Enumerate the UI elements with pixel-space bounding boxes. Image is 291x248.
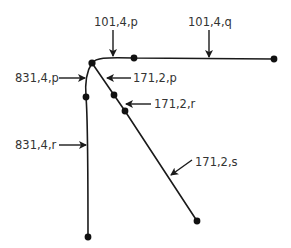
label-171-2-s: 171,2,s — [195, 155, 238, 169]
node-junction — [88, 59, 95, 66]
node-top-end — [271, 56, 278, 63]
label-101-4-p: 101,4,p — [94, 15, 138, 29]
node-diag-1 — [111, 92, 118, 99]
edge-left-branch — [86, 63, 92, 237]
tree-diagram: 101,4,p 101,4,q 831,4,p 171,2,p 171,2,r … — [0, 0, 291, 248]
node-diag-end — [194, 218, 201, 225]
label-171-2-p: 171,2,p — [133, 71, 177, 85]
edge-top-branch — [92, 58, 274, 63]
label-101-4-q: 101,4,q — [188, 15, 232, 29]
label-171-2-r: 171,2,r — [154, 97, 196, 111]
label-831-4-p: 831,4,p — [15, 71, 59, 85]
label-831-4-r: 831,4,r — [15, 138, 57, 152]
node-left-mid — [83, 94, 90, 101]
node-diag-2 — [122, 108, 129, 115]
edge-diagonal-branch — [92, 63, 197, 221]
node-top-mid — [131, 55, 138, 62]
node-left-end — [85, 234, 92, 241]
arrow-171-2-s-icon — [171, 160, 192, 175]
